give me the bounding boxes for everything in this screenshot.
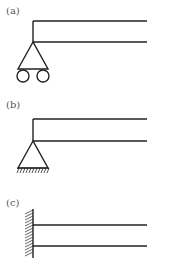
panel-a-frame — [33, 21, 147, 42]
diagram-canvas — [0, 0, 190, 265]
ground-hatch-icon — [17, 168, 49, 173]
pin-support-icon — [18, 141, 48, 168]
fixed-wall-icon — [25, 209, 33, 258]
panel-b-frame — [33, 119, 147, 141]
roller-support-icon — [17, 42, 49, 82]
panel-c-beams — [33, 225, 147, 246]
